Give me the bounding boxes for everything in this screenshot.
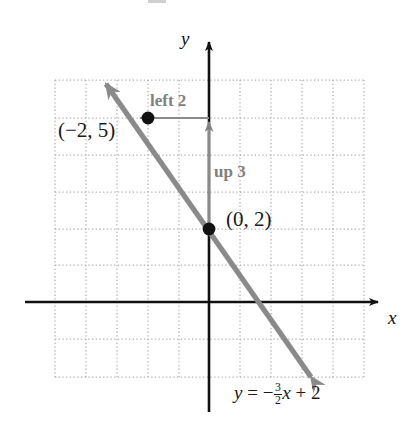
point-marker-a <box>142 112 155 125</box>
x-axis-label: x <box>388 308 396 327</box>
annotation-up-3: up 3 <box>214 163 246 180</box>
equation-sign: − <box>263 382 274 403</box>
equation-constant: 2 <box>311 382 321 403</box>
point-marker-b <box>203 223 216 236</box>
fraction-numerator: 3 <box>274 382 282 395</box>
equation-lhs: y <box>234 382 242 403</box>
equation-fraction: 32 <box>274 382 282 408</box>
equation-label: y = −32x + 2 <box>234 382 320 408</box>
point-label-minus2-5: (−2, 5) <box>58 120 115 141</box>
point-label-0-2: (0, 2) <box>226 209 272 230</box>
annotation-left-2: left 2 <box>150 92 186 109</box>
equation-variable: x <box>282 382 290 403</box>
fraction-denominator: 2 <box>274 395 282 407</box>
equation-equals: = <box>247 382 258 403</box>
equation-plus: + <box>295 382 306 403</box>
y-axis-label: y <box>181 29 189 48</box>
coordinate-plane-graphic <box>0 0 418 433</box>
figure-canvas: (−2, 5) (0, 2) left 2 up 3 y x y = −32x … <box>0 0 418 433</box>
